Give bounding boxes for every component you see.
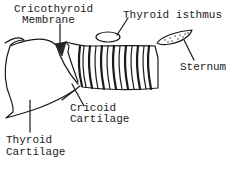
label-thyroid-isthmus: Thyroid isthmus <box>123 10 222 21</box>
tracheal-rings <box>79 46 151 89</box>
leader-sternum <box>184 40 194 60</box>
label-cricothyroid-line2: Membrane <box>22 15 75 26</box>
thyroid-isthmus-shape <box>96 32 120 42</box>
thyroid-cartilage-shape <box>5 38 75 118</box>
larynx-diagram: Cricothyroid Membrane Thyroid isthmus St… <box>0 0 232 169</box>
label-thyroid-cartilage-line2: Cartilage <box>6 147 65 158</box>
sternum-shape <box>157 30 192 45</box>
label-sternum: Sternum <box>180 62 226 73</box>
label-cricoid-line2: Cartilage <box>70 114 129 125</box>
label-thyroid-cartilage-line1: Thyroid <box>6 135 52 146</box>
